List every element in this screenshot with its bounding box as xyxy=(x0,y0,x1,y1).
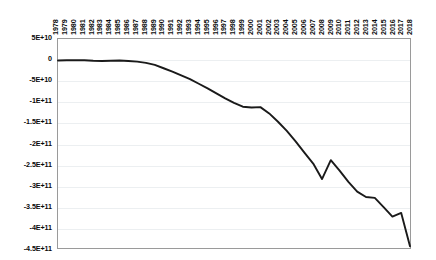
x-axis-tick-label: 1979 xyxy=(60,19,69,35)
y-axis-tick-label: -3.5E+11 xyxy=(0,203,52,211)
x-axis-tick-label: 1998 xyxy=(228,19,237,35)
x-axis-tick-label: 1988 xyxy=(140,19,149,35)
y-axis-tick-label: -5E+10 xyxy=(0,76,52,84)
y-axis-tick-label: -2.5E+11 xyxy=(0,161,52,169)
x-axis-tick-label: 1985 xyxy=(113,19,122,35)
y-axis-tick-label: 5E+10 xyxy=(0,34,52,42)
x-axis-tick-label: 1981 xyxy=(78,19,87,35)
x-axis-tick-label: 1978 xyxy=(51,19,60,35)
y-axis-tick-label: -3E+11 xyxy=(0,182,52,190)
y-axis-tick-label: -1E+11 xyxy=(0,97,52,105)
x-axis-tick-label: 1984 xyxy=(104,19,113,35)
chart-container: 1978197919801981198219831984198519861987… xyxy=(0,0,436,260)
x-axis-tick-label: 2018 xyxy=(405,19,414,35)
x-axis-tick-labels: 1978197919801981198219831984198519861987… xyxy=(57,0,411,36)
y-axis-tick-label: 0 xyxy=(0,55,52,63)
x-axis-tick-label: 2014 xyxy=(370,19,379,35)
x-axis-tick-label: 2000 xyxy=(246,19,255,35)
series-polyline xyxy=(58,60,410,246)
x-axis-tick-label: 2012 xyxy=(352,19,361,35)
x-axis-tick-label: 1991 xyxy=(166,19,175,35)
x-axis-tick-label: 1980 xyxy=(69,19,78,35)
x-axis-tick-label: 1987 xyxy=(131,19,140,35)
x-axis-tick-label: 1994 xyxy=(193,19,202,35)
y-axis-tick-labels: 5E+100-5E+10-1E+11-1.5E+11-2E+11-2.5E+11… xyxy=(0,38,52,249)
x-axis-tick-label: 2005 xyxy=(290,19,299,35)
x-axis-tick-label: 2001 xyxy=(255,19,264,35)
x-axis-tick-label: 2015 xyxy=(379,19,388,35)
x-axis-tick-label: 2013 xyxy=(361,19,370,35)
y-axis-tick-label: -1.5E+11 xyxy=(0,118,52,126)
x-axis-tick-label: 1993 xyxy=(184,19,193,35)
x-axis-tick-label: 2011 xyxy=(343,20,352,35)
plot-area xyxy=(57,38,411,249)
x-axis-tick-label: 1997 xyxy=(219,19,228,35)
x-axis-tick-label: 2017 xyxy=(396,19,405,35)
y-axis-tick-label: -4E+11 xyxy=(0,224,52,232)
x-axis-tick-label: 2007 xyxy=(308,19,317,35)
line-series xyxy=(58,39,410,248)
x-axis-tick-label: 2006 xyxy=(299,19,308,35)
x-axis-tick-label: 1986 xyxy=(122,19,131,35)
x-axis-tick-label: 1992 xyxy=(175,19,184,35)
x-axis-tick-label: 2008 xyxy=(317,19,326,35)
x-axis-tick-label: 2004 xyxy=(281,19,290,35)
y-axis-tick-label: -2E+11 xyxy=(0,140,52,148)
y-axis-tick-label: -4.5E+11 xyxy=(0,245,52,253)
x-axis-tick-label: 1995 xyxy=(202,19,211,35)
x-axis-tick-label: 1999 xyxy=(237,19,246,35)
